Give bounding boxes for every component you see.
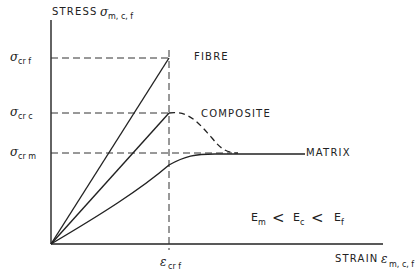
fibre-label: FIBRE (194, 51, 229, 62)
svg-text:c: c (300, 218, 304, 227)
y-axis-label: STRESS (52, 6, 98, 17)
x-tick-symbol: ε (160, 255, 166, 269)
y-tick-subscript: cr m (18, 152, 36, 161)
x-tick-subscript: cr f (168, 262, 181, 271)
stress-strain-diagram: STRESS σ m, c, f σ cr f σ cr c σ cr m ε … (0, 0, 417, 277)
y-tick-subscript: cr f (18, 57, 31, 66)
svg-text:f: f (341, 218, 344, 227)
svg-text:<: < (311, 209, 324, 227)
svg-text:E: E (251, 211, 258, 224)
modulus-relation: E m < E c < E f (251, 209, 344, 227)
svg-text:m: m (258, 218, 266, 227)
svg-text:E: E (293, 211, 300, 224)
composite-label: COMPOSITE (201, 108, 271, 119)
svg-text:<: < (272, 209, 285, 227)
x-axis-subscript: m, c, f (389, 260, 414, 269)
svg-text:E: E (334, 211, 341, 224)
fibre-curve (51, 58, 169, 244)
guide-lines (51, 50, 232, 250)
matrix-label: MATRIX (306, 147, 351, 158)
x-axis-label: STRAIN (335, 253, 378, 264)
matrix-curve (51, 154, 305, 244)
x-axis-symbol: ε (381, 252, 387, 266)
y-tick-subscript: cr c (18, 112, 33, 121)
y-axis-subscript: m, c, f (108, 12, 133, 21)
